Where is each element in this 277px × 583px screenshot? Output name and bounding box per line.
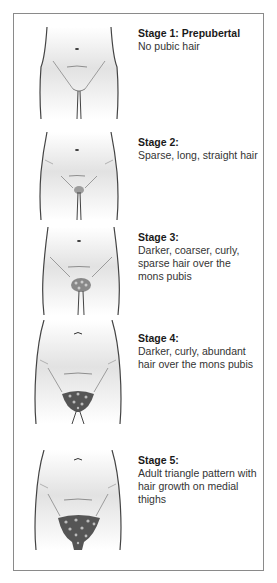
torso-illustration-stage-2 (39, 132, 119, 220)
stage-description: Adult triangle pattern with hair growth … (138, 467, 258, 506)
torso-illustration-stage-5 (34, 450, 122, 550)
stage-4-text: Stage 4: Darker, curly, abundant hair ov… (138, 332, 258, 371)
stage-title: Stage 3: (138, 231, 258, 244)
stage-5-row: Stage 5: Adult triangle pattern with hai… (14, 454, 263, 569)
torso-illustration-stage-3 (42, 227, 122, 315)
stage-title: Stage 1: Prepubertal (138, 27, 258, 40)
stage-title: Stage 5: (138, 454, 258, 467)
stage-1-row: Stage 1: Prepubertal No pubic hair (14, 27, 263, 127)
stage-description: Sparse, long, straight hair (138, 149, 258, 162)
stage-2-row: Stage 2: Sparse, long, straight hair (14, 136, 263, 231)
torso-illustration-stage-4 (34, 320, 122, 424)
stage-description: Darker, curly, abundant hair over the mo… (138, 345, 258, 371)
stage-3-text: Stage 3: Darker, coarser, curly, sparse … (138, 231, 258, 283)
stage-1-text: Stage 1: Prepubertal No pubic hair (138, 27, 258, 53)
torso-illustration-stage-1 (39, 27, 119, 119)
stage-2-text: Stage 2: Sparse, long, straight hair (138, 136, 258, 162)
stage-description: Darker, coarser, curly, sparse hair over… (138, 244, 258, 283)
stage-description: No pubic hair (138, 40, 258, 53)
stage-4-row: Stage 4: Darker, curly, abundant hair ov… (14, 332, 263, 447)
stage-title: Stage 2: (138, 136, 258, 149)
stage-title: Stage 4: (138, 332, 258, 345)
stage-3-row: Stage 3: Darker, coarser, curly, sparse … (14, 231, 263, 326)
stage-5-text: Stage 5: Adult triangle pattern with hai… (138, 454, 258, 506)
tanner-stages-figure: Stage 1: Prepubertal No pubic hair Stage… (13, 13, 264, 571)
